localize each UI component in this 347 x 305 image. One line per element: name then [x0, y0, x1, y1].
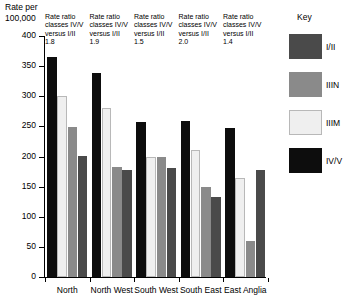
- bar: [246, 241, 256, 277]
- x-tick-mark: [45, 278, 46, 282]
- bar-chart: Rate per100,000 050100150200250300350400…: [0, 0, 347, 305]
- y-tick-mark: [39, 247, 44, 248]
- x-tick-mark: [90, 278, 91, 282]
- bar: [146, 157, 156, 277]
- rate-ratio-annotation-value: 1.8: [45, 38, 55, 45]
- y-tick-label: 0: [0, 272, 36, 281]
- bar: [136, 122, 146, 277]
- legend-label: I/II: [326, 42, 335, 52]
- bar: [256, 170, 266, 277]
- y-axis-title-line1: Rate per: [5, 2, 38, 12]
- y-tick-mark: [39, 187, 44, 188]
- rate-ratio-annotation-text: Rate ratio classes IV/V versus I/II: [223, 13, 262, 37]
- bar: [102, 108, 112, 277]
- x-tick-mark: [179, 278, 180, 282]
- y-tick-label: 150: [0, 182, 36, 191]
- y-tick-label: 200: [0, 152, 36, 161]
- y-tick-mark: [39, 66, 44, 67]
- bar: [157, 157, 167, 277]
- rate-ratio-annotation: Rate ratio classes IV/V versus I/II1.4: [223, 13, 262, 46]
- bar: [112, 167, 122, 277]
- y-tick-mark: [39, 277, 44, 278]
- y-tick-label: 400: [0, 31, 36, 40]
- y-tick-label: 350: [0, 61, 36, 70]
- x-axis-label: East Anglia: [213, 285, 278, 295]
- legend-swatch: [289, 34, 322, 59]
- bar: [225, 128, 235, 277]
- legend-swatch: [289, 72, 322, 97]
- bar: [92, 73, 102, 277]
- y-tick-mark: [39, 96, 44, 97]
- legend-swatch: [289, 148, 322, 173]
- rate-ratio-annotation-text: Rate ratio classes IV/V versus I/II: [90, 13, 129, 37]
- y-tick-mark: [39, 126, 44, 127]
- y-tick-mark: [39, 157, 44, 158]
- rate-ratio-annotation-text: Rate ratio classes IV/V versus I/II: [45, 13, 84, 37]
- y-axis-title-line2: 100,000: [5, 13, 36, 23]
- legend-label: IIIM: [326, 118, 340, 128]
- rate-ratio-annotation: Rate ratio classes IV/V versus I/II2.0: [179, 13, 218, 46]
- y-tick-mark: [39, 217, 44, 218]
- rate-ratio-annotation-text: Rate ratio classes IV/V versus I/II: [134, 13, 173, 37]
- rate-ratio-annotation-value: 2.0: [179, 38, 189, 45]
- y-tick-mark: [39, 36, 44, 37]
- y-tick-label: 300: [0, 91, 36, 100]
- y-tick-label: 50: [0, 242, 36, 251]
- bar: [57, 96, 67, 277]
- legend-label: IV/V: [326, 156, 342, 166]
- y-axis-line: [44, 36, 45, 278]
- bar: [181, 121, 191, 277]
- y-tick-label: 100: [0, 212, 36, 221]
- legend-swatch: [289, 110, 322, 135]
- y-axis-title: Rate per100,000: [5, 2, 38, 23]
- bar: [211, 197, 221, 277]
- bar: [47, 57, 57, 277]
- bar: [167, 168, 177, 277]
- legend-title: Key: [297, 12, 312, 22]
- x-tick-mark: [268, 278, 269, 282]
- rate-ratio-annotation-text: Rate ratio classes IV/V versus I/II: [179, 13, 218, 37]
- legend-label: IIIN: [326, 80, 339, 90]
- y-tick-label: 250: [0, 121, 36, 130]
- rate-ratio-annotation-value: 1.9: [90, 38, 100, 45]
- bar: [68, 127, 78, 277]
- rate-ratio-annotation: Rate ratio classes IV/V versus I/II1.9: [90, 13, 129, 46]
- rate-ratio-annotation: Rate ratio classes IV/V versus I/II1.8: [45, 13, 84, 46]
- rate-ratio-annotation-value: 1.5: [134, 38, 144, 45]
- rate-ratio-annotation-value: 1.4: [223, 38, 233, 45]
- bar: [78, 156, 88, 277]
- bar: [191, 150, 201, 277]
- rate-ratio-annotation: Rate ratio classes IV/V versus I/II1.5: [134, 13, 173, 46]
- bar: [201, 187, 211, 277]
- x-tick-mark: [134, 278, 135, 282]
- bar: [235, 178, 245, 277]
- bar: [122, 170, 132, 277]
- x-tick-mark: [223, 278, 224, 282]
- x-axis-line: [44, 277, 266, 278]
